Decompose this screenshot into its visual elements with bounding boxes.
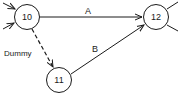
- node-12: 12: [144, 5, 169, 30]
- incoming-arrows-node-10: [3, 3, 15, 29]
- node-11: 11: [47, 68, 72, 93]
- edge-dummy-label: Dummy: [4, 49, 32, 58]
- edge-a: A: [40, 6, 142, 17]
- edge-a-label: A: [85, 6, 91, 16]
- node-11-label: 11: [54, 75, 63, 85]
- node-10-label: 10: [22, 12, 32, 22]
- network-diagram: A B Dummy 10 11 12: [0, 0, 180, 99]
- node-12-label: 12: [151, 12, 161, 22]
- edge-b-label: B: [92, 44, 98, 54]
- edge-b: B: [71, 25, 144, 74]
- edge-dummy: Dummy: [4, 29, 53, 67]
- node-10: 10: [15, 5, 40, 30]
